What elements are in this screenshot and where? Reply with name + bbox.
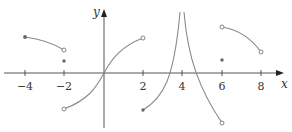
open-point (220, 25, 224, 29)
x-tick-label: 8 (258, 80, 265, 93)
x-tick-label: −2 (56, 80, 72, 93)
open-point (220, 121, 224, 125)
x-tick-label: 2 (140, 80, 147, 93)
segment-right (222, 27, 261, 52)
isolated-point-6 (220, 58, 223, 61)
x-tick-label: −4 (17, 80, 33, 93)
closed-point (141, 108, 144, 111)
asymptote-right-branch (184, 12, 222, 123)
open-point (141, 36, 145, 40)
asymptote-left-branch (143, 12, 180, 110)
open-point (259, 50, 263, 54)
open-point (62, 107, 66, 111)
x-tick-label: 6 (219, 80, 226, 93)
s-curve-center (64, 38, 143, 109)
x-axis-label: x (281, 77, 288, 91)
isolated-point-neg2 (62, 59, 65, 62)
y-axis-arrow-icon (101, 9, 107, 17)
x-tick-label: 4 (179, 80, 186, 93)
x-axis-arrow-icon (276, 70, 284, 76)
closed-point (23, 35, 27, 39)
function-graph: −4 −2 2 4 6 8 x y (0, 0, 292, 132)
y-axis-label: y (92, 5, 100, 19)
segment-left (25, 37, 64, 50)
open-point (62, 48, 66, 52)
